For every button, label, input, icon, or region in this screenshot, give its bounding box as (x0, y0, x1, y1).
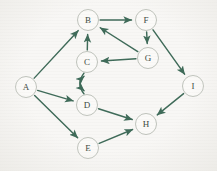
node-i[interactable]: I (183, 76, 204, 97)
node-a-label: A (23, 82, 30, 92)
edge-a-to-d (38, 90, 73, 100)
edge-e-to-h (99, 130, 132, 144)
edge-f-to-g (147, 32, 148, 43)
node-c-label: C (84, 57, 90, 67)
node-g-label: G (145, 53, 152, 63)
nodes-layer: ABCDEFGHI (16, 10, 204, 159)
node-a[interactable]: A (16, 77, 37, 98)
node-e-label: E (85, 143, 91, 153)
node-f[interactable]: F (136, 10, 157, 31)
node-d-label: D (84, 100, 91, 110)
graph-svg: ABCDEFGHI (0, 0, 217, 171)
node-h-label: H (143, 119, 150, 129)
node-d[interactable]: D (77, 95, 98, 116)
node-g[interactable]: G (138, 48, 159, 69)
edge-g-to-c (101, 59, 135, 61)
node-c[interactable]: C (77, 52, 98, 73)
graph-diagram-canvas: ABCDEFGHI (0, 0, 217, 171)
node-b[interactable]: B (78, 10, 99, 31)
edge-g-to-b (100, 28, 138, 52)
edges-layer (34, 20, 184, 143)
edge-d-to-h (99, 109, 133, 120)
node-b-label: B (85, 15, 91, 25)
node-h[interactable]: H (136, 114, 157, 135)
node-i-label: I (192, 81, 195, 91)
node-f-label: F (143, 15, 148, 25)
edge-i-to-h (157, 94, 183, 115)
edge-a-to-e (35, 95, 78, 137)
edge-a-to-b (34, 31, 78, 78)
edge-f-to-i (153, 30, 185, 74)
node-e[interactable]: E (78, 138, 99, 159)
